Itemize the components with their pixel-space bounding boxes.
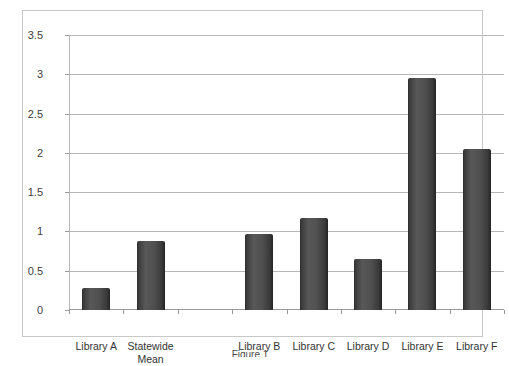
plot-area: 00.511.522.533.5 Library AStatewideMeanL…	[69, 35, 504, 310]
y-axis-tick-label: 2	[0, 147, 43, 159]
gridline	[69, 35, 504, 36]
x-axis-tick-mark	[341, 310, 342, 314]
y-axis-tick-label: 3	[0, 68, 43, 80]
y-axis-line	[69, 35, 70, 310]
x-axis-tick-mark	[123, 310, 124, 314]
bar	[354, 259, 382, 310]
bar	[137, 241, 165, 310]
y-axis-tick-mark	[65, 192, 69, 193]
bar	[82, 288, 110, 310]
y-axis-tick-mark	[65, 74, 69, 75]
gridline	[69, 114, 504, 115]
x-axis-tick-mark	[232, 310, 233, 314]
y-axis-tick-mark	[65, 114, 69, 115]
y-axis-tick-label: 3.5	[0, 29, 43, 41]
gridline	[69, 74, 504, 75]
figure-caption: Figure 1	[0, 349, 500, 357]
bar	[408, 78, 436, 310]
gridline	[69, 192, 504, 193]
gridline	[69, 153, 504, 154]
x-axis-tick-mark	[504, 310, 505, 314]
y-axis-tick-label: 0.5	[0, 265, 43, 277]
y-axis-tick-label: 0	[0, 304, 43, 316]
chart-frame: 00.511.522.533.5 Library AStatewideMeanL…	[22, 10, 483, 337]
x-axis-tick-mark	[287, 310, 288, 314]
y-axis-tick-label: 2.5	[0, 108, 43, 120]
gridline	[69, 271, 504, 272]
y-axis-tick-label: 1	[0, 225, 43, 237]
x-axis-tick-mark	[450, 310, 451, 314]
x-axis-tick-mark	[178, 310, 179, 314]
y-axis-tick-mark	[65, 153, 69, 154]
bar	[463, 149, 491, 310]
gridline	[69, 231, 504, 232]
y-axis-tick-mark	[65, 271, 69, 272]
x-axis-tick-mark	[69, 310, 70, 314]
y-axis-tick-mark	[65, 35, 69, 36]
y-axis-tick-mark	[65, 231, 69, 232]
x-axis-tick-mark	[395, 310, 396, 314]
bar	[245, 234, 273, 310]
bar	[300, 218, 328, 310]
y-axis-tick-label: 1.5	[0, 186, 43, 198]
